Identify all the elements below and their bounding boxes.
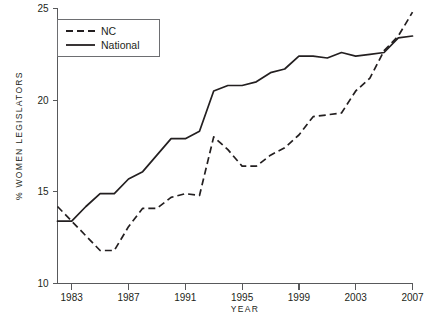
x-tick-label: 1991 — [174, 292, 197, 303]
x-tick-label: 1987 — [117, 292, 140, 303]
y-axis-ticks — [53, 9, 58, 284]
y-tick-label: 10 — [37, 278, 49, 289]
legend-label-national: National — [101, 39, 140, 51]
y-tick-label: 20 — [37, 95, 49, 106]
x-axis-title: YEAR — [231, 304, 259, 314]
x-tick-label: 1999 — [288, 292, 311, 303]
chart-container: 10152025 1983198719911995199920032007 % … — [0, 0, 431, 322]
x-axis-ticks — [72, 284, 413, 290]
y-axis-title: % WOMEN LEGISLATORS — [14, 71, 24, 200]
x-tick-label: 2007 — [401, 292, 424, 303]
series-line-national — [58, 36, 413, 221]
legend-label-nc: NC — [101, 25, 117, 37]
chart-legend: NC National — [58, 20, 160, 57]
y-axis-tick-labels: 10152025 — [37, 3, 49, 289]
x-tick-label: 1983 — [61, 292, 84, 303]
line-chart: 10152025 1983198719911995199920032007 % … — [0, 0, 431, 322]
y-tick-label: 25 — [37, 3, 49, 14]
y-tick-label: 15 — [37, 186, 49, 197]
x-tick-label: 1995 — [231, 292, 254, 303]
x-tick-label: 2003 — [345, 292, 368, 303]
x-axis-tick-labels: 1983198719911995199920032007 — [61, 292, 424, 303]
